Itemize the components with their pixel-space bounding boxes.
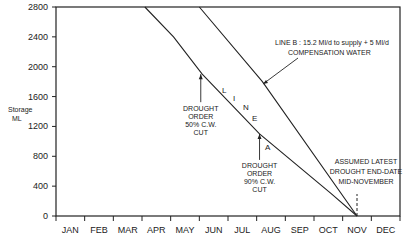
y-tick-label: 0 bbox=[43, 211, 48, 221]
y-tick-label: 2800 bbox=[28, 2, 48, 12]
x-tick-label: JAN bbox=[62, 225, 79, 235]
x-tick-label: JUL bbox=[234, 225, 250, 235]
drought-order-90-label: CUT bbox=[252, 186, 267, 193]
x-axis-ticks: JANFEBMARAPRMAYJUNJULAUGSEPOCTNOVDEC bbox=[56, 216, 400, 235]
end-date-label: MID-NOVEMBER bbox=[338, 178, 393, 185]
end-date-label: ASSUMED LATEST bbox=[335, 158, 398, 165]
y-tick-label: 2000 bbox=[28, 62, 48, 72]
line-a-letter: N bbox=[243, 103, 249, 112]
x-tick-label: APR bbox=[147, 225, 166, 235]
y-tick-label: 800 bbox=[33, 151, 48, 161]
x-tick-label: JUN bbox=[205, 225, 223, 235]
drought-order-50-label: 50% C.W. bbox=[185, 121, 216, 128]
y-axis-label: Storage bbox=[8, 106, 33, 114]
end-date-label: DROUGHT END-DATE bbox=[330, 168, 403, 175]
x-tick-label: MAY bbox=[176, 225, 195, 235]
y-tick-label: 400 bbox=[33, 181, 48, 191]
drought-order-50-label: CUT bbox=[194, 129, 209, 136]
y-tick-label: 1600 bbox=[28, 92, 48, 102]
x-tick-label: FEB bbox=[90, 225, 108, 235]
y-axis-unit: ML bbox=[12, 115, 22, 122]
line-a-letter: E bbox=[252, 114, 257, 123]
line-a-letter: I bbox=[233, 94, 235, 103]
x-tick-label: DEC bbox=[376, 225, 396, 235]
drought-order-90-label: DROUGHT bbox=[242, 162, 278, 169]
line-a-letter: L bbox=[222, 86, 227, 95]
drought-order-50-label: DROUGHT bbox=[183, 105, 219, 112]
drought-order-90-label: ORDER bbox=[247, 170, 272, 177]
storage-chart: 040080012001600200024002800 JANFEBMARAPR… bbox=[0, 0, 407, 242]
line-b-label: LINE B : 15.2 Ml/d to supply + 5 Ml/d bbox=[275, 39, 389, 47]
x-tick-label: AUG bbox=[261, 225, 281, 235]
line-a-letter: A bbox=[265, 143, 271, 152]
y-tick-label: 2400 bbox=[28, 32, 48, 42]
x-tick-label: OCT bbox=[319, 225, 339, 235]
x-tick-label: SEP bbox=[291, 225, 309, 235]
line-b-label-2: COMPENSATION WATER bbox=[288, 49, 371, 56]
y-tick-label: 1200 bbox=[28, 121, 48, 131]
drought-order-50-label: ORDER bbox=[188, 113, 213, 120]
x-tick-label: NOV bbox=[347, 225, 367, 235]
annotations: Storage ML LINE B : 15.2 Ml/d to supply … bbox=[8, 39, 403, 216]
x-tick-label: MAR bbox=[118, 225, 139, 235]
drought-order-90-label: 90% C.W. bbox=[244, 178, 275, 185]
